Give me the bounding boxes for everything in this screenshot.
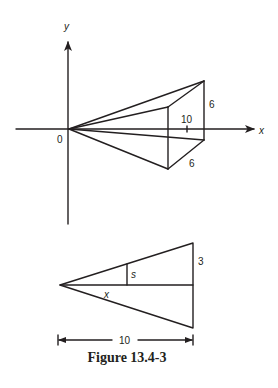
width-10-label: 10 [119, 335, 131, 346]
base-top-edge [168, 81, 204, 107]
dimension-10: 10 [58, 335, 193, 346]
edge-apex-back-bottom [69, 129, 204, 140]
figure-canvas: y x 0 10 6 6 s x 3 [0, 0, 278, 388]
height-label: 6 [209, 99, 215, 110]
side-3-label: 3 [198, 256, 204, 267]
s-label: s [131, 269, 136, 280]
edge-apex-front-top [69, 107, 168, 129]
pyramid [69, 81, 204, 169]
figure-caption: Figure 13.4-3 [87, 350, 166, 365]
x-axis-label: x [258, 125, 265, 136]
y-axis-label: y [63, 21, 70, 32]
base-bottom-edge [168, 140, 204, 169]
edge-apex-front-bottom [69, 129, 168, 169]
depth-label: 6 [189, 158, 195, 169]
x-label: x [103, 289, 110, 300]
top-diagram: y x 0 10 6 6 [16, 21, 265, 224]
origin-label: 0 [57, 134, 63, 145]
tick-10-label: 10 [181, 114, 193, 125]
bottom-diagram: s x 3 10 [58, 243, 204, 346]
